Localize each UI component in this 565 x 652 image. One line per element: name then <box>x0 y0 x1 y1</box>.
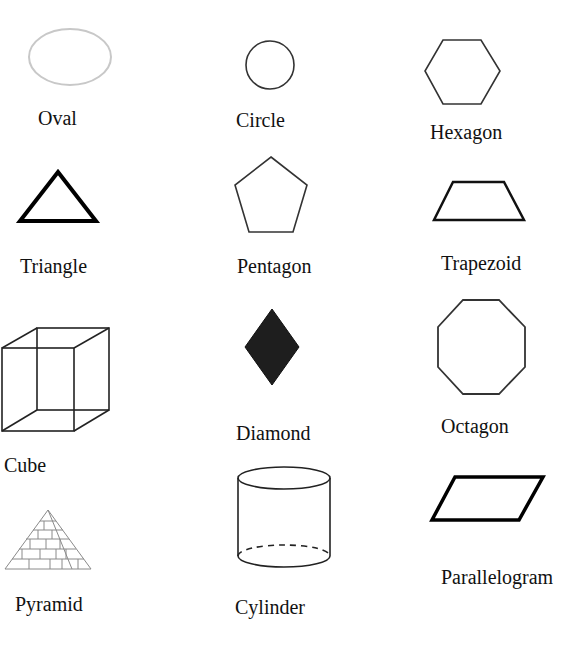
cube-label: Cube <box>4 455 46 475</box>
diamond-shape <box>245 309 299 385</box>
parallelogram-label: Parallelogram <box>441 567 553 587</box>
cylinder-label: Cylinder <box>235 597 305 617</box>
parallelogram-shape <box>432 477 543 520</box>
oval-label: Oval <box>38 108 77 128</box>
circle-label: Circle <box>236 110 285 130</box>
diamond-label: Diamond <box>236 423 310 443</box>
cylinder-shape <box>238 467 330 567</box>
pentagon-label: Pentagon <box>237 256 311 276</box>
hexagon-label: Hexagon <box>430 122 502 142</box>
pentagon-shape <box>235 157 307 232</box>
hexagon-shape <box>425 40 500 104</box>
octagon-shape <box>438 300 525 394</box>
trapezoid-label: Trapezoid <box>441 253 521 273</box>
pyramid-label: Pyramid <box>15 594 83 614</box>
cube-shape <box>2 328 109 431</box>
pyramid-shape <box>5 510 91 569</box>
oval-shape <box>29 29 111 85</box>
triangle-shape <box>20 172 96 221</box>
octagon-label: Octagon <box>441 416 509 436</box>
triangle-label: Triangle <box>20 256 87 276</box>
shapes-diagram <box>0 0 565 652</box>
trapezoid-shape <box>434 182 524 220</box>
circle-shape <box>246 41 294 89</box>
